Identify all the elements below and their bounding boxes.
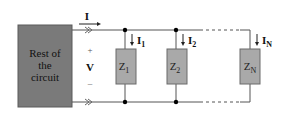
voltage-plus: + <box>87 45 92 55</box>
current-arrowhead-n-icon <box>255 42 259 46</box>
current-i2-label: I2 <box>188 34 196 49</box>
current-i1-label: I1 <box>137 34 145 49</box>
current-arrowhead-2-icon <box>181 42 185 46</box>
node-bottom-2 <box>174 100 178 104</box>
total-current-arrowhead-icon <box>97 22 101 26</box>
block-label-line-3: circuit <box>31 71 59 83</box>
node-top-1 <box>123 28 127 32</box>
block-label-line-1: Rest of <box>29 47 61 59</box>
total-current-label: I <box>85 10 89 22</box>
voltage-minus: – <box>87 78 93 88</box>
node-bottom-1 <box>123 100 127 104</box>
block-label-line-2: the <box>38 59 52 71</box>
node-top-2 <box>174 28 178 32</box>
current-in-label: IN <box>262 34 272 49</box>
circuit-diagram: Rest of the circuit I + V – Z1 I1 <box>0 0 287 114</box>
voltage-label: V <box>86 61 94 73</box>
branch-1: Z1 I1 <box>116 28 145 104</box>
branch-2: Z2 I2 <box>167 28 196 104</box>
branch-n: ZN IN <box>240 30 272 102</box>
current-arrowhead-1-icon <box>130 42 134 46</box>
